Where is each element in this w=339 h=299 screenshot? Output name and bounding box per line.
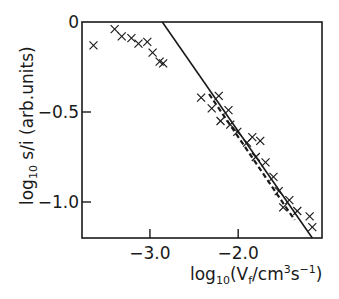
y-tick-label: −1.0 [38, 192, 79, 212]
fit-lines [162, 22, 312, 238]
y-axis-label: log10 s/i (arb.units) [17, 46, 40, 205]
y-tick-label: −0.5 [38, 102, 79, 122]
x-marker-point [149, 49, 157, 57]
x-marker-point [256, 137, 264, 145]
x-marker-point [134, 40, 142, 48]
x-marker-point [118, 32, 126, 40]
chart-container: −3.0−2.00−0.5−1.0 log10(Vf/cm3s−1) log10… [0, 0, 339, 299]
x-marker-point [262, 158, 270, 166]
x-marker-point [215, 92, 223, 100]
x-marker-point [217, 117, 225, 125]
y-tick-label: 0 [68, 12, 79, 32]
plot-frame [82, 22, 322, 238]
x-marker-point [127, 34, 135, 42]
axis-ticks [82, 112, 238, 238]
dashed-trend [209, 94, 295, 220]
tick-labels: −3.0−2.00−0.5−1.0 [38, 12, 259, 263]
x-marker-point [159, 59, 167, 67]
x-marker-point [224, 106, 232, 114]
x-marker-point [143, 38, 151, 46]
chart-svg: −3.0−2.00−0.5−1.0 log10(Vf/cm3s−1) log10… [0, 0, 339, 299]
x-marker-point [111, 25, 119, 33]
x-marker-point [197, 94, 205, 102]
x-marker-point [89, 41, 97, 49]
x-axis-label: log10(Vf/cm3s−1) [190, 263, 322, 287]
x-marker-point [248, 133, 256, 141]
fit-line [162, 22, 312, 238]
x-tick-label: −2.0 [218, 243, 259, 263]
x-marker-point [306, 212, 314, 220]
x-marker-point [308, 223, 316, 231]
x-tick-label: −3.0 [129, 243, 170, 263]
x-marker-point [208, 104, 216, 112]
